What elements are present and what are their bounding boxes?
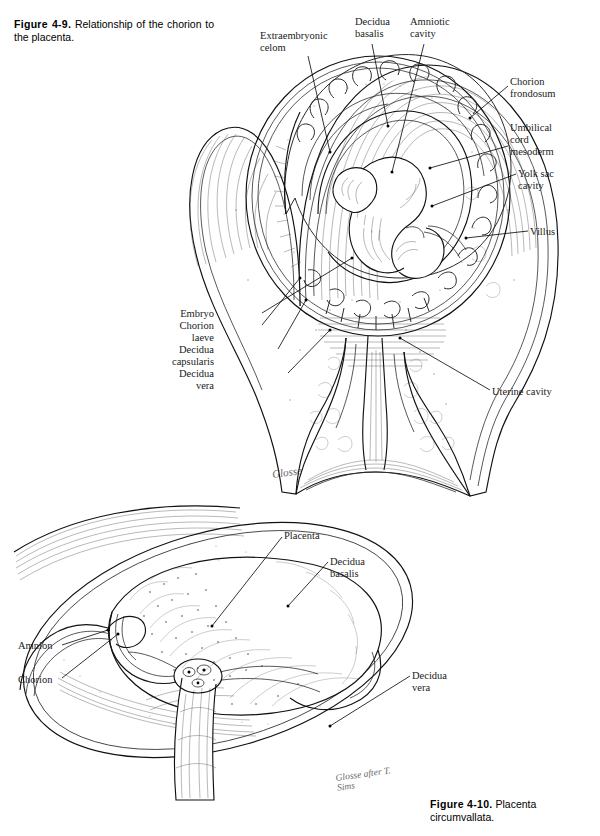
label-yolk-sac-cavity: Yolk sac cavity [518,168,554,192]
label-uterine-cavity: Uterine cavity [492,386,552,398]
leader-extraembryonic-celom [308,56,330,152]
leader-chorion-laeve [262,278,300,325]
leader-chorion [62,634,118,678]
figure-4-10-drawing [0,481,440,800]
leader-tip-decidua-vera [329,329,332,332]
chorion-frondosum-villi [285,55,511,318]
cervix-and-lower-segment [296,336,470,496]
leader-tip-chorion-laeve [299,277,302,280]
leader-tip-decidua-basalis [287,605,290,608]
decidua-vera-hatching [318,318,446,366]
extraembryonic-celom [302,93,484,200]
leader-tip-decidua-vera [329,725,332,728]
leader-amnion [62,630,108,645]
uterine-wall-arc [16,510,244,580]
label-chorion: Chorion [18,674,52,686]
label-amnion: Amnion [18,640,52,652]
leader-umbilical-cord-mesoderm [430,146,508,168]
decidua-vera-stipple [235,209,514,404]
label-decidua-basalis: Decidua basalis [355,16,390,40]
leader-tip-placenta [211,625,214,628]
leader-tip-chorion [117,633,120,636]
leader-chorion-frondosum [470,86,508,118]
decidua-vera-bed [0,481,440,799]
embryo [333,157,466,278]
leader-tip-yolk-sac-cavity [431,205,434,208]
leader-yolk-sac-cavity [432,174,516,206]
leader-tip-extraembryonic-celom [329,151,332,154]
figure-4-9-number: Figure 4-9. [14,18,71,30]
leader-villus [466,231,528,238]
leader-uterine-cavity [400,338,490,390]
label-leader-lines [62,44,528,728]
leader-placenta [212,537,282,626]
leader-tip-decidua-basalis [387,125,390,128]
umbilical-cord [128,652,320,800]
uterine-wall [190,65,558,496]
leader-embryo [262,258,352,313]
circumvallate-ring [108,612,380,710]
label-villus: Villus [530,226,555,238]
leader-tip-amniotic-cavity [391,171,394,174]
cord-vessels-cross-section [174,659,222,693]
leader-amniotic-cavity [392,44,424,172]
label-chorion-frondosum: Chorion frondosum [510,76,556,100]
figure-4-10-caption: Figure 4-10. Placenta circumvallata. [430,798,595,824]
leader-tip-embryo [351,257,354,260]
chorion-laeve [274,112,301,267]
label-chorion-laeve: Chorion laeve [180,320,214,344]
artist-signature-figure-4-9: Glosse [271,464,302,480]
label-embryo: Embryo [180,308,214,320]
leader-tip-villus [465,237,468,240]
artist-signature-figure-4-10: Glosse after T. Sims [335,763,407,793]
label-extraembryonic-celom: Extraembryonic celom [260,30,328,54]
leader-tip-umbilical-cord-mesoderm [429,167,432,170]
decidua-capsularis [246,56,510,336]
label-amniotic-cavity: Amniotic cavity [410,16,450,40]
leader-decidua-vera [288,330,330,373]
myometrium-hatching-left [190,134,276,266]
leader-tip-amnion [107,629,110,632]
membrane-hatching [58,672,256,736]
label-decidua-vera: Decidua vera [179,368,214,392]
figure-4-9-drawing [190,55,558,496]
decidua-basalis-villi [326,298,429,330]
label-decidua-capsularis: Decidua capsularis [172,344,214,368]
leader-tip-decidua-capsularis [305,299,308,302]
leader-decidua-basalis [372,44,388,126]
placental-disc [109,557,381,715]
leader-decidua-basalis [288,562,328,606]
capsularis-stipple [281,83,478,302]
label-decidua-basalis: Decidua basalis [330,556,365,580]
label-umbilical-cord-mesoderm: Umbilical cord mesoderm [510,122,554,157]
decidua-vera-stipple-2 [51,543,370,728]
amniotic-cavity [318,111,472,283]
leader-tip-chorion-frondosum [469,117,472,120]
leader-decidua-vera [330,676,410,726]
leader-decidua-capsularis [278,300,306,349]
figure-4-10-number: Figure 4-10. [430,798,493,810]
endometrial-glands [310,187,500,451]
figure-4-9-caption: Figure 4-9. Relationship of the chorion … [14,18,214,44]
label-placenta: Placenta [284,530,320,542]
label-decidua-vera: Decidua vera [412,670,447,694]
leader-tip-uterine-cavity [399,337,402,340]
